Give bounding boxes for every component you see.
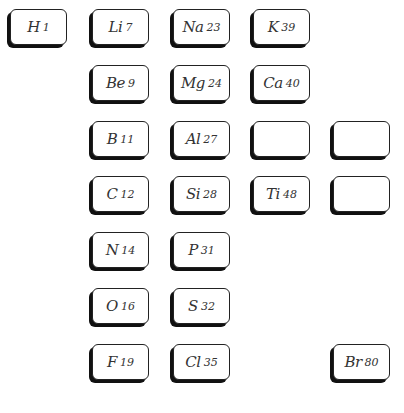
element-symbol: Ti — [266, 185, 280, 203]
element-card-f[interactable]: F19 — [92, 344, 149, 380]
atomic-weight: 48 — [283, 188, 297, 201]
atomic-weight: 7 — [125, 21, 132, 34]
element-card-na[interactable]: Na23 — [173, 9, 230, 45]
element-card-b[interactable]: B11 — [92, 121, 149, 157]
element-symbol: K — [268, 18, 279, 36]
empty-element-card[interactable] — [333, 121, 390, 157]
element-symbol: N — [106, 241, 119, 259]
atomic-weight: 39 — [281, 21, 295, 34]
element-card-ti[interactable]: Ti48 — [253, 176, 310, 212]
atomic-weight: 12 — [120, 188, 134, 201]
element-symbol: S — [188, 297, 198, 315]
element-card-ca[interactable]: Ca40 — [253, 65, 310, 101]
element-symbol: Si — [186, 185, 200, 203]
element-card-be[interactable]: Be9 — [92, 65, 149, 101]
element-symbol: Mg — [181, 74, 205, 92]
element-symbol: C — [107, 185, 118, 203]
atomic-weight: 23 — [207, 21, 221, 34]
element-symbol: P — [188, 241, 198, 259]
atomic-weight: 16 — [121, 300, 135, 313]
empty-element-card[interactable] — [333, 176, 390, 212]
atomic-weight: 1 — [43, 21, 50, 34]
element-symbol: Li — [109, 18, 123, 36]
element-symbol: H — [27, 18, 40, 36]
atomic-weight: 35 — [204, 356, 218, 369]
atomic-weight: 28 — [203, 188, 217, 201]
element-symbol: Br — [344, 353, 361, 371]
element-card-p[interactable]: P31 — [173, 232, 230, 268]
atomic-weight: 9 — [128, 77, 135, 90]
element-symbol: Na — [182, 18, 203, 36]
atomic-weight: 32 — [201, 300, 215, 313]
element-symbol: Be — [106, 74, 125, 92]
element-card-li[interactable]: Li7 — [92, 9, 149, 45]
atomic-weight: 14 — [121, 244, 135, 257]
element-card-h[interactable]: H1 — [10, 9, 67, 45]
atomic-weight: 24 — [208, 77, 222, 90]
element-symbol: Ca — [263, 74, 282, 92]
element-symbol: B — [107, 130, 118, 148]
empty-element-card[interactable] — [253, 121, 310, 157]
element-symbol: F — [107, 353, 117, 371]
element-card-mg[interactable]: Mg24 — [173, 65, 230, 101]
element-symbol: Cl — [185, 353, 200, 371]
element-card-k[interactable]: K39 — [253, 9, 310, 45]
element-card-o[interactable]: O16 — [92, 288, 149, 324]
element-card-br[interactable]: Br80 — [333, 344, 390, 380]
element-card-n[interactable]: N14 — [92, 232, 149, 268]
element-card-c[interactable]: C12 — [92, 176, 149, 212]
atomic-weight: 19 — [120, 356, 134, 369]
atomic-weight: 40 — [286, 77, 300, 90]
element-symbol: O — [106, 297, 118, 315]
element-symbol: Al — [186, 130, 201, 148]
atomic-weight: 11 — [120, 133, 134, 146]
element-card-al[interactable]: Al27 — [173, 121, 230, 157]
element-card-si[interactable]: Si28 — [173, 176, 230, 212]
atomic-weight: 27 — [203, 133, 217, 146]
atomic-weight: 80 — [365, 356, 379, 369]
element-card-s[interactable]: S32 — [173, 288, 230, 324]
atomic-weight: 31 — [201, 244, 215, 257]
element-card-cl[interactable]: Cl35 — [173, 344, 230, 380]
